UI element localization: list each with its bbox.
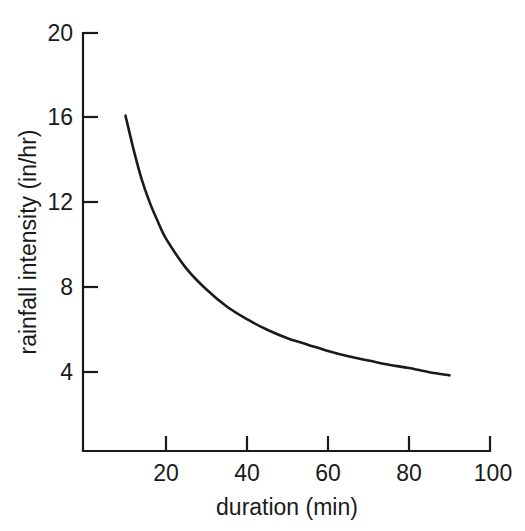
y-tick-label-8: 8 [60, 274, 73, 300]
data-series-rainfall-intensity [126, 116, 450, 376]
y-axis-tick-labels: 20 16 12 8 4 [47, 20, 73, 385]
x-axis-title: duration (min) [216, 494, 358, 520]
x-tick-label-100: 100 [474, 460, 512, 486]
y-tick-label-20: 20 [47, 20, 73, 46]
x-axis-tick-labels: 20 40 60 80 100 [153, 460, 512, 486]
x-tick-label-40: 40 [234, 460, 260, 486]
y-tick-label-4: 4 [60, 359, 73, 385]
y-axis-ticks [83, 117, 98, 372]
y-axis-title: rainfall intensity (in/hr) [15, 130, 41, 355]
rainfall-intensity-duration-chart: 20 16 12 8 4 20 40 60 80 100 duration (m… [0, 0, 525, 531]
x-axis-ticks [166, 436, 409, 451]
y-tick-label-16: 16 [47, 104, 73, 130]
x-tick-label-80: 80 [396, 460, 422, 486]
chart-figure: 20 16 12 8 4 20 40 60 80 100 duration (m… [0, 0, 525, 531]
y-tick-label-12: 12 [47, 189, 73, 215]
axis-spines [83, 33, 490, 451]
x-tick-label-60: 60 [315, 460, 341, 486]
x-tick-label-20: 20 [153, 460, 179, 486]
